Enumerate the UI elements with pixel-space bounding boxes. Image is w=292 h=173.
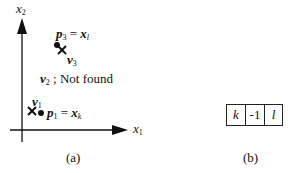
x-axis-arrowhead [112,125,128,135]
caption-a: (a) [66,150,80,166]
p1-equation: p1 = xk [47,105,81,121]
y-axis-label: x2 [16,1,26,17]
v2-not-found-note: v2 ; Not found [40,71,113,87]
p3-equation: p3 = xl [56,26,89,42]
v3-label: v3 [67,52,77,68]
caption-b: (b) [243,150,258,166]
p1-point [38,110,44,116]
x-axis-label: x1 [133,121,143,137]
y-axis-arrowhead [17,18,27,34]
array-cell-2: -1 [245,104,265,126]
array-cell-1: k [226,104,246,126]
v1-label: v1 [32,94,42,110]
array-cell-3: l [264,104,283,126]
